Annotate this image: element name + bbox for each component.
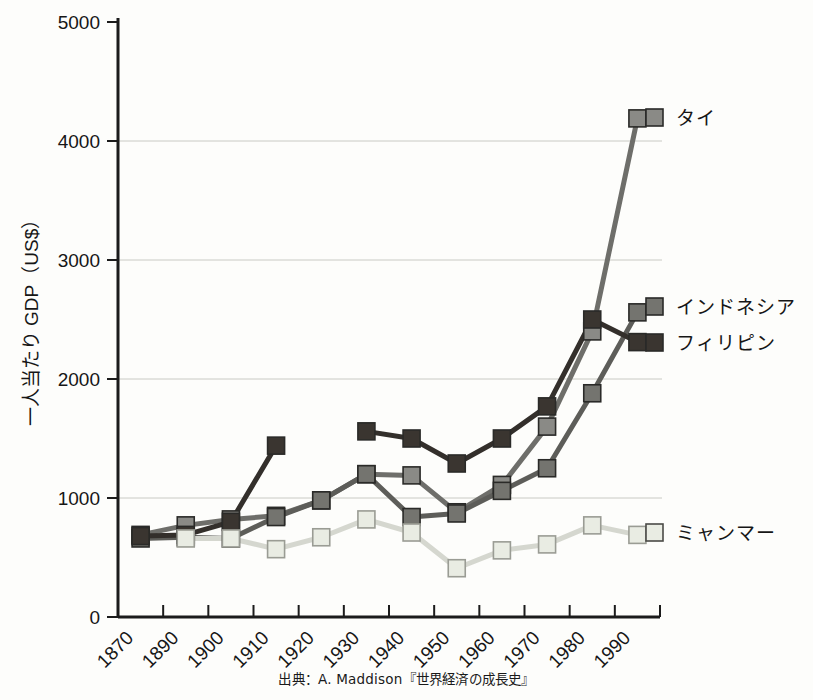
legend-swatch <box>646 298 663 315</box>
data-point-marker <box>222 513 239 530</box>
data-point-marker <box>222 530 239 547</box>
data-point-marker <box>268 541 285 558</box>
data-point-marker <box>629 304 646 321</box>
series-label: タイ <box>676 107 716 129</box>
series-label: インドネシア <box>676 296 796 318</box>
y-axis-title: 一人当たり GDP（US$） <box>21 210 42 426</box>
data-point-marker <box>403 430 420 447</box>
data-point-marker <box>268 437 285 454</box>
y-tick-label: 2000 <box>58 369 100 390</box>
data-point-marker <box>584 311 601 328</box>
data-point-marker <box>358 423 375 440</box>
y-tick-label: 4000 <box>58 131 100 152</box>
series-label: ミャンマー <box>676 522 776 544</box>
data-point-marker <box>448 505 465 522</box>
data-point-marker <box>584 517 601 534</box>
data-point-marker <box>539 398 556 415</box>
data-point-marker <box>448 455 465 472</box>
data-point-marker <box>448 560 465 577</box>
y-tick-label: 5000 <box>58 12 100 33</box>
chart-canvas: 010002000300040005000 187018901900191019… <box>0 0 813 700</box>
gdp-per-capita-line-chart: 010002000300040005000 187018901900191019… <box>0 0 813 700</box>
data-point-marker <box>313 492 330 509</box>
data-point-marker <box>403 509 420 526</box>
data-point-marker <box>539 460 556 477</box>
legend-swatch <box>646 334 663 351</box>
data-point-marker <box>584 385 601 402</box>
data-point-marker <box>493 430 510 447</box>
data-point-marker <box>629 526 646 543</box>
data-point-marker <box>313 529 330 546</box>
legend-swatch <box>646 109 663 126</box>
data-point-marker <box>358 466 375 483</box>
series-label: フィリピン <box>676 332 776 354</box>
data-point-marker <box>132 528 149 545</box>
data-point-marker <box>403 524 420 541</box>
data-point-marker <box>493 482 510 499</box>
data-point-marker <box>539 418 556 435</box>
y-tick-label: 0 <box>89 607 100 628</box>
data-point-marker <box>629 110 646 127</box>
data-point-marker <box>403 467 420 484</box>
data-point-marker <box>539 536 556 553</box>
data-point-marker <box>177 530 194 547</box>
data-point-marker <box>268 509 285 526</box>
source-note: 出典：A. Maddison『世界経済の成長史』 <box>0 668 813 688</box>
data-point-marker <box>358 511 375 528</box>
y-tick-label: 3000 <box>58 250 100 271</box>
data-point-marker <box>629 334 646 351</box>
y-tick-label: 1000 <box>58 488 100 509</box>
data-point-marker <box>493 542 510 559</box>
legend-swatch <box>646 524 663 541</box>
